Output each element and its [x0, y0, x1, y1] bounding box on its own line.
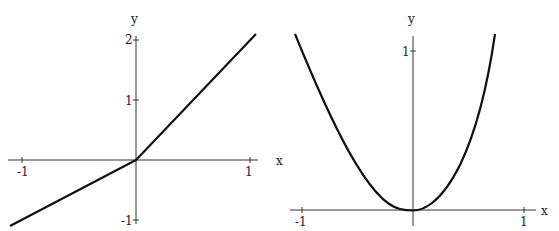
left-ytick-label-1: 1 — [125, 94, 133, 108]
left-curve — [10, 34, 256, 226]
left-plot: -1 1 2 1 -1 x y — [8, 12, 283, 228]
right-ytick-label-1: 1 — [402, 45, 410, 59]
left-xtick-label-1: 1 — [245, 165, 253, 179]
right-y-axis-label: y — [407, 12, 415, 26]
right-curve — [295, 34, 495, 211]
left-x-axis-label: x — [276, 154, 283, 168]
figure: -1 1 2 1 -1 x y -1 1 1 x y — [0, 0, 559, 231]
right-xtick-label-1: 1 — [520, 215, 528, 229]
right-xtick-label-neg1: -1 — [295, 215, 307, 229]
right-x-axis-label: x — [541, 204, 548, 218]
left-xtick-label-neg1: -1 — [17, 165, 29, 179]
right-plot: -1 1 1 x y — [290, 12, 548, 229]
left-ytick-label-2: 2 — [125, 33, 133, 47]
left-y-axis-label: y — [130, 12, 138, 26]
left-ytick-label-neg1: -1 — [121, 214, 133, 228]
